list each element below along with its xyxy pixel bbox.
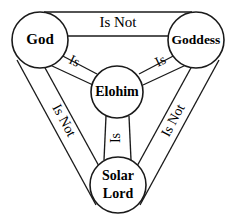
shield-diagram-canvas: God Goddess Elohim Solar Lord Is Not Is … <box>0 0 234 217</box>
node-label-god: God <box>26 31 54 47</box>
edge-label-goddess-elohim: Is <box>153 52 169 70</box>
node-label-goddess: Goddess <box>172 32 221 47</box>
node-label-solar-lord-line1: Solar <box>102 168 134 183</box>
edge-label-god-goddess: Is Not <box>99 14 137 30</box>
shield-diagram: God Goddess Elohim Solar Lord Is Not Is … <box>0 0 234 217</box>
node-circle-solar-lord[interactable] <box>90 157 146 213</box>
node-label-elohim: Elohim <box>95 84 139 99</box>
edge-label-god-elohim: Is <box>67 52 83 70</box>
edge-label-solarlord-elohim: Is <box>108 133 123 143</box>
node-label-solar-lord-line2: Lord <box>103 186 134 201</box>
